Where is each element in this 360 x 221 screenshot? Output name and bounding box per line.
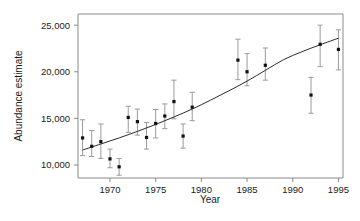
fitted-trend-curve: [83, 38, 339, 150]
y-axis-ticks: [74, 25, 78, 165]
y-tick-label: 20,000: [41, 66, 70, 77]
chart-figure: 10,00015,00020,00025,000 197019751980198…: [0, 0, 360, 221]
data-point-marker: [108, 157, 111, 160]
data-point-marker: [181, 134, 184, 137]
data-point-markers: [81, 43, 340, 169]
y-tick-label: 25,000: [41, 20, 70, 31]
data-point-marker: [163, 114, 166, 117]
x-axis-title: Year: [200, 194, 221, 205]
y-axis-tick-labels: 10,00015,00020,00025,000: [41, 20, 70, 171]
x-tick-label: 1995: [328, 184, 349, 195]
y-axis-title: Abundance estimate: [13, 50, 24, 142]
data-point-marker: [99, 140, 102, 143]
data-point-marker: [118, 165, 121, 168]
data-point-marker: [236, 59, 239, 62]
data-point-marker: [127, 116, 130, 119]
data-point-marker: [319, 43, 322, 46]
data-point-marker: [191, 106, 194, 109]
data-point-marker: [337, 48, 340, 51]
x-tick-label: 1985: [236, 184, 257, 195]
data-point-marker: [154, 122, 157, 125]
data-point-marker: [90, 145, 93, 148]
data-point-marker: [136, 120, 139, 123]
trend-line: [83, 38, 339, 150]
data-point-marker: [264, 64, 267, 67]
plot-border: [78, 14, 343, 178]
data-point-marker: [245, 70, 248, 73]
x-tick-label: 1970: [99, 184, 120, 195]
data-point-marker: [309, 93, 312, 96]
abundance-estimate-scatter-chart: 10,00015,00020,00025,000 197019751980198…: [0, 0, 360, 221]
data-point-marker: [172, 100, 175, 103]
y-tick-label: 10,000: [41, 159, 70, 170]
y-tick-label: 15,000: [41, 113, 70, 124]
x-axis-tick-labels: 197019751980198519901995: [99, 184, 349, 195]
plot-frame: [78, 14, 343, 178]
x-tick-label: 1990: [282, 184, 303, 195]
x-tick-label: 1975: [145, 184, 166, 195]
x-axis-ticks: [110, 178, 338, 182]
data-point-marker: [81, 136, 84, 139]
data-point-marker: [145, 136, 148, 139]
